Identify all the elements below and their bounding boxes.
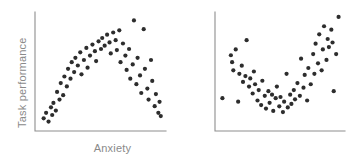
data-point xyxy=(264,107,268,111)
data-point xyxy=(305,98,309,102)
data-point xyxy=(306,66,310,70)
scatter-plot-figure: Task performance Anxiety Dependence on o… xyxy=(0,0,361,163)
data-point xyxy=(145,87,149,91)
chart-panel-anxiety: Task performance Anxiety xyxy=(0,0,180,163)
data-point xyxy=(96,39,100,43)
data-point xyxy=(231,68,235,72)
data-point xyxy=(55,90,59,94)
data-point xyxy=(275,84,279,88)
data-point xyxy=(255,98,259,102)
data-point xyxy=(326,37,330,41)
data-point xyxy=(136,56,140,60)
data-point xyxy=(82,58,86,62)
data-point xyxy=(62,74,66,78)
data-point xyxy=(240,64,244,68)
data-point xyxy=(312,72,316,76)
data-point xyxy=(90,43,94,47)
data-point xyxy=(260,79,264,83)
data-point xyxy=(288,93,292,97)
data-point xyxy=(241,80,245,84)
data-point xyxy=(321,47,325,51)
data-point xyxy=(289,102,293,106)
data-points-left xyxy=(42,18,163,123)
data-point xyxy=(268,101,272,105)
data-point xyxy=(324,58,328,62)
data-point xyxy=(138,73,142,77)
data-point xyxy=(54,109,58,113)
data-point xyxy=(320,68,324,72)
data-point xyxy=(301,86,305,90)
data-point xyxy=(149,58,153,62)
data-point xyxy=(298,94,302,98)
chart-panel-age: Dependence on others Age xyxy=(180,0,361,163)
data-point xyxy=(229,53,233,57)
data-point xyxy=(330,40,334,44)
data-point xyxy=(247,84,251,88)
data-point xyxy=(237,72,241,76)
data-point xyxy=(72,70,76,74)
data-point xyxy=(66,67,70,71)
data-point xyxy=(266,89,270,93)
data-point xyxy=(42,116,46,120)
data-point xyxy=(243,74,247,78)
data-point xyxy=(121,41,125,45)
data-point xyxy=(309,82,313,86)
data-point xyxy=(146,98,150,102)
data-point xyxy=(159,114,163,118)
data-point xyxy=(50,113,54,117)
data-point xyxy=(313,42,317,46)
data-point xyxy=(123,54,127,58)
data-point xyxy=(142,27,146,31)
data-point xyxy=(57,98,61,102)
data-point xyxy=(253,82,257,86)
data-point xyxy=(154,92,158,96)
data-point xyxy=(127,47,131,51)
data-point xyxy=(78,50,82,54)
axis-lines-left xyxy=(35,12,166,131)
data-point xyxy=(139,91,143,95)
data-point xyxy=(44,111,48,115)
data-point xyxy=(49,105,53,109)
data-point xyxy=(134,82,138,86)
data-point xyxy=(61,93,65,97)
data-point xyxy=(100,36,104,40)
data-point xyxy=(117,28,121,32)
data-point xyxy=(248,76,252,80)
data-point xyxy=(329,28,333,32)
data-point xyxy=(311,52,315,56)
data-point xyxy=(51,101,55,105)
data-point xyxy=(59,81,63,85)
data-point xyxy=(303,73,307,77)
data-point xyxy=(105,33,109,37)
data-point xyxy=(114,38,118,42)
x-axis-label-anxiety: Anxiety xyxy=(60,142,165,154)
data-point xyxy=(73,56,77,60)
data-point xyxy=(282,100,286,104)
data-point xyxy=(317,32,321,36)
data-point xyxy=(103,44,107,48)
data-point xyxy=(292,88,296,92)
data-point xyxy=(334,52,338,56)
data-point xyxy=(111,30,115,34)
data-point xyxy=(157,100,161,104)
data-point xyxy=(263,94,267,98)
data-point xyxy=(88,54,92,58)
data-point xyxy=(257,88,261,92)
data-point xyxy=(79,72,83,76)
data-point xyxy=(336,15,340,19)
data-point xyxy=(270,93,274,97)
data-point xyxy=(322,24,326,28)
data-point xyxy=(259,103,263,107)
data-point xyxy=(65,84,69,88)
data-point xyxy=(128,77,132,81)
data-point xyxy=(84,46,88,50)
data-point xyxy=(85,66,89,70)
data-point xyxy=(125,68,129,72)
data-point xyxy=(245,38,249,42)
data-points-right xyxy=(220,15,340,114)
age-scatter-svg xyxy=(180,0,361,163)
y-axis-label-task-performance: Task performance xyxy=(16,37,28,128)
data-point xyxy=(277,104,281,108)
data-point xyxy=(68,77,72,81)
data-point xyxy=(131,62,135,66)
